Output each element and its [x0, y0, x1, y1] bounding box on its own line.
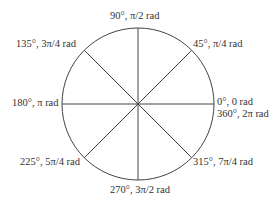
label-0-deg: 0°, 0 rad — [217, 96, 253, 108]
label-180-deg: 180°, π rad — [12, 97, 59, 109]
label-315-deg: 315°, 7π/4 rad — [193, 156, 253, 168]
label-90-deg: 90°, π/2 rad — [110, 10, 159, 22]
label-225-deg: 225°, 5π/4 rad — [20, 156, 80, 168]
label-360-deg: 360°, 2π rad — [217, 108, 269, 120]
label-45-deg: 45°, π/4 rad — [193, 38, 242, 50]
label-135-deg: 135°, 3π/4 rad — [16, 38, 76, 50]
label-270-deg: 270°, 3π/2 rad — [110, 184, 170, 196]
